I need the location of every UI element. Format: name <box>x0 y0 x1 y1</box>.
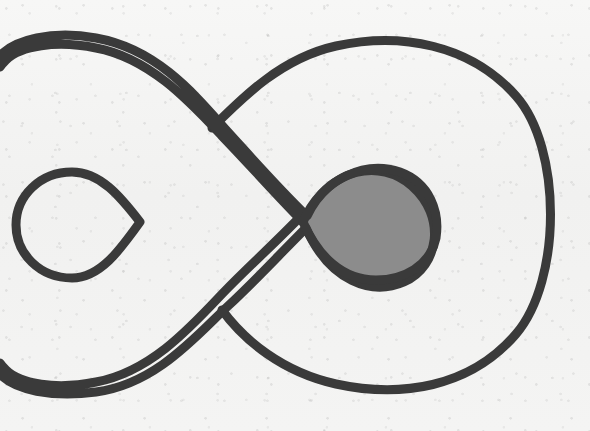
knot-diagram-figure: A single closed loop drawn as a figure-e… <box>0 0 590 431</box>
knot-diagram-canvas: A single closed loop drawn as a figure-e… <box>0 0 590 431</box>
left-small-loop <box>16 172 140 278</box>
